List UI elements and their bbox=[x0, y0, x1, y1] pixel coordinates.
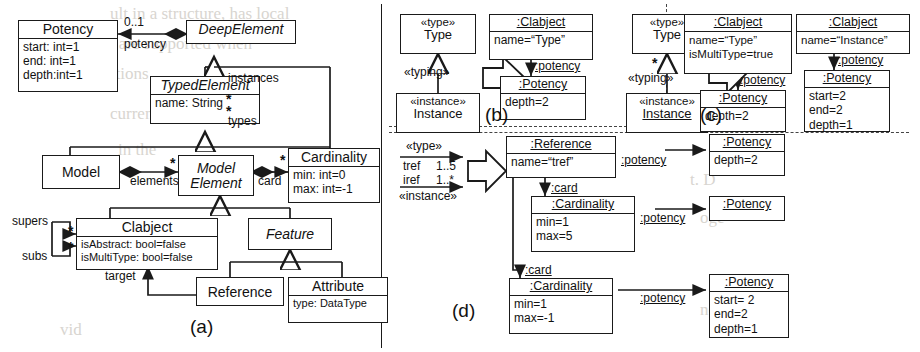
attribute: max: int=-1 bbox=[293, 182, 375, 196]
class-name-line1: Model bbox=[197, 161, 235, 175]
class-attributes: name: String bbox=[151, 94, 259, 111]
object-title: :Clabject bbox=[490, 15, 592, 31]
stereotype-instance-d: «instance» bbox=[399, 190, 457, 202]
slot: name=“Instance” bbox=[801, 33, 905, 47]
objectbox-c-clabject-type[interactable]: :Clabject name=“Type” isMultiType=true bbox=[684, 14, 792, 74]
objectbox-d-potency-cardinality-bottom[interactable]: :Potency start= 2 end=2 depth=1 bbox=[709, 274, 789, 338]
assoc-label-target: target bbox=[105, 270, 136, 282]
assoc-label-types: types bbox=[228, 115, 257, 127]
element-name: Instance bbox=[631, 107, 703, 121]
link-label-potency-d-cardbot: :potency bbox=[640, 292, 685, 304]
objectbox-b-potency[interactable]: :Potency depth=2 bbox=[500, 76, 586, 120]
class-box-model[interactable]: Model bbox=[42, 155, 120, 189]
link-label-potency-d-ref: :potency bbox=[621, 154, 666, 166]
class-name-line2: Element bbox=[190, 176, 241, 190]
link-label-typing-c: «typing» bbox=[628, 72, 673, 84]
panel-label-a: (a) bbox=[190, 316, 213, 338]
stereotype-and-name: «instance» Instance bbox=[397, 94, 479, 122]
class-box-feature[interactable]: Feature bbox=[248, 218, 332, 250]
object-title: :Potency bbox=[710, 275, 788, 291]
class-box-deepelement[interactable]: DeepElement bbox=[186, 20, 296, 44]
instance-ref-label-d: iref bbox=[403, 174, 420, 186]
slot: name=“Type” bbox=[689, 33, 787, 47]
class-box-modelelement[interactable]: Model Element bbox=[178, 155, 254, 196]
multiplicity-star: * bbox=[68, 240, 73, 254]
link-label-typing-b: «typing» bbox=[404, 66, 449, 78]
object-title: :Potency bbox=[501, 77, 585, 93]
slot: start=2 bbox=[809, 89, 885, 104]
element-name: Instance bbox=[401, 107, 475, 121]
slot: min=1 bbox=[536, 215, 630, 230]
link-label-potency-d-cardtop: :potency bbox=[640, 212, 685, 224]
class-name: Attribute bbox=[289, 278, 387, 295]
attribute: name: String bbox=[155, 96, 255, 110]
typebox-c-instance[interactable]: «instance» Instance bbox=[626, 93, 708, 133]
object-title-text: :Clabject bbox=[829, 15, 878, 29]
class-attributes: isAbstract: bool=false isMultiType: bool… bbox=[77, 236, 217, 265]
slot: depth=2 bbox=[505, 95, 581, 110]
object-title: :Cardinality bbox=[532, 197, 634, 213]
class-name: DeepElement bbox=[187, 21, 295, 38]
objectbox-d-potency-reference[interactable]: :Potency depth=2 bbox=[709, 134, 785, 176]
class-box-potency[interactable]: Potency start: int=1 end: int=1 depth:in… bbox=[18, 20, 118, 92]
class-box-cardinality[interactable]: Cardinality min: int=0 max: int=-1 bbox=[288, 148, 380, 203]
multiplicity-star: * bbox=[170, 156, 175, 170]
class-name: Clabject bbox=[77, 219, 217, 236]
attribute: end: int=1 bbox=[23, 54, 113, 68]
slot: depth=1 bbox=[714, 322, 784, 337]
type-mult-label-d: 1..5 bbox=[436, 160, 456, 172]
objectbox-d-cardinality-bottom[interactable]: :Cardinality min=1 max=-1 bbox=[509, 278, 613, 334]
slot: start= 2 bbox=[714, 293, 784, 308]
assoc-label-card: card bbox=[258, 175, 281, 187]
class-box-attribute[interactable]: Attribute type: DataType bbox=[288, 277, 388, 323]
object-slots: name=“Type” bbox=[490, 31, 592, 49]
objectbox-b-clabject[interactable]: :Clabject name=“Type” bbox=[489, 14, 593, 60]
attribute: depth:int=1 bbox=[23, 68, 113, 82]
object-title-text: :Clabject bbox=[714, 15, 763, 29]
object-title: :Potency bbox=[805, 71, 889, 87]
object-title-text: :Potency bbox=[719, 91, 768, 105]
object-title-text: :Potency bbox=[823, 71, 872, 85]
multiplicity-star-c: * bbox=[652, 56, 657, 70]
objectbox-d-potency-cardinality-top[interactable]: :Potency bbox=[709, 196, 785, 221]
slot: name=“tref” bbox=[511, 155, 611, 170]
object-slots: depth=2 bbox=[710, 151, 784, 169]
object-slots: start= 2 end=2 depth=1 bbox=[710, 291, 788, 338]
slot: end=2 bbox=[809, 103, 885, 118]
typebox-b-instance[interactable]: «instance» Instance bbox=[396, 93, 480, 133]
attribute: isMultiType: bool=false bbox=[81, 251, 213, 264]
stereotype-and-name: «instance» Instance bbox=[627, 94, 707, 122]
attribute: start: int=1 bbox=[23, 40, 113, 54]
object-title: :Clabject bbox=[685, 15, 791, 31]
link-label-card-d-bottom: :card bbox=[525, 264, 552, 276]
objectbox-c-potency-instance[interactable]: :Potency start=2 end=2 depth=1 bbox=[804, 70, 890, 132]
object-title: :Clabject bbox=[797, 15, 909, 31]
object-slots: name=“tref” bbox=[507, 153, 615, 171]
object-title-text: :Potency bbox=[725, 275, 774, 289]
transform-arrow-d bbox=[466, 148, 508, 194]
class-name: Cardinality bbox=[289, 149, 379, 166]
class-name: Reference bbox=[208, 284, 273, 300]
attribute: min: int=0 bbox=[293, 168, 375, 182]
class-attributes: min: int=0 max: int=-1 bbox=[289, 166, 379, 197]
class-box-reference[interactable]: Reference bbox=[196, 277, 284, 306]
panel-label-c: (c) bbox=[700, 104, 722, 126]
object-title: :Potency bbox=[710, 197, 784, 213]
class-box-clabject[interactable]: Clabject isAbstract: bool=false isMultiT… bbox=[76, 218, 218, 270]
object-title-text: :Potency bbox=[723, 135, 772, 149]
link-label-potency-c-instance: :potency bbox=[838, 54, 883, 66]
slot: max=5 bbox=[536, 229, 630, 244]
objectbox-c-clabject-instance[interactable]: :Clabject name=“Instance” bbox=[796, 14, 910, 54]
assoc-label-potency: potency bbox=[124, 38, 166, 50]
object-slots: name=“Type” isMultiType=true bbox=[685, 31, 791, 62]
slot: depth=1 bbox=[809, 118, 885, 133]
slot: min=1 bbox=[514, 297, 608, 312]
attribute: isAbstract: bool=false bbox=[81, 238, 213, 251]
object-title-text: :Clabject bbox=[517, 15, 566, 29]
link-label-card-d-top: :card bbox=[551, 182, 578, 194]
object-slots: min=1 max=5 bbox=[532, 213, 634, 245]
objectbox-d-cardinality-top[interactable]: :Cardinality min=1 max=5 bbox=[531, 196, 635, 252]
typebox-b-type[interactable]: «type» Type bbox=[400, 14, 476, 54]
objectbox-d-reference[interactable]: :Reference name=“tref” bbox=[506, 136, 616, 178]
multiplicity-star: * bbox=[68, 224, 73, 238]
